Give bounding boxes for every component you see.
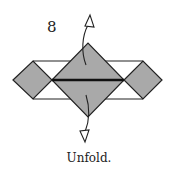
caption: Unfold. xyxy=(67,151,112,165)
left-diamond xyxy=(13,61,52,99)
step-number: 8 xyxy=(47,18,57,36)
right-diamond xyxy=(124,61,162,99)
origami-diagram: 8 Unfold. xyxy=(0,0,177,169)
